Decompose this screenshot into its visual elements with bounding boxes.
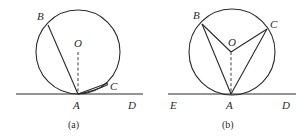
- label-d-a: D: [127, 99, 136, 111]
- caption-b: (b): [222, 119, 234, 131]
- label-d-b: D: [281, 99, 290, 111]
- chord-ac-a: [78, 83, 108, 94]
- label-o-a: O: [74, 37, 82, 49]
- diagram-svg: B O C A D (a) B O C A E D (b): [0, 0, 308, 138]
- caption-a: (a): [68, 119, 79, 131]
- label-b-b: B: [193, 9, 200, 21]
- figure-a: B O C A D (a): [16, 10, 143, 131]
- radius-oc-b: [231, 29, 267, 52]
- geometry-figure: B O C A D (a) B O C A E D (b): [0, 0, 308, 138]
- chord-ab-b: [202, 24, 231, 94]
- label-a-a: A: [72, 99, 80, 111]
- label-e-b: E: [169, 99, 177, 111]
- label-c-b: C: [270, 18, 278, 30]
- figure-b: B O C A E D (b): [168, 9, 296, 131]
- label-a-b: A: [225, 99, 233, 111]
- label-o-b: O: [228, 36, 236, 48]
- label-b-a: B: [37, 10, 44, 22]
- chord-ac-b: [231, 29, 267, 94]
- radius-ob-b: [202, 24, 231, 52]
- chord-ab-a: [48, 25, 78, 94]
- label-c-a: C: [110, 80, 118, 92]
